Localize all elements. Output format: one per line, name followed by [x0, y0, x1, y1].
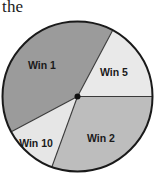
- sector-label-win2: Win 2: [87, 132, 115, 144]
- spinner-wheel[interactable]: Spinner wheel divided into four win sect…: [0, 0, 158, 188]
- spinner-figure: the Spinner wheel divided into four win …: [0, 0, 158, 188]
- sector-label-win1: Win 1: [28, 59, 56, 71]
- sector-label-win5: Win 5: [100, 66, 128, 78]
- spinner-pivot-icon: [75, 94, 81, 100]
- spinner-svg: Spinner wheel divided into four win sect…: [0, 0, 158, 188]
- sector-label-win10: Win 10: [19, 137, 53, 149]
